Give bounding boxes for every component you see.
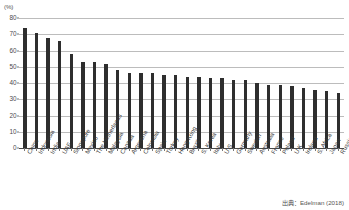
x-label-slot: U.S.: [216, 151, 228, 195]
bar-slot: [158, 18, 170, 148]
y-axis-tick-label: 70: [9, 31, 16, 37]
x-label-slot: Canada: [112, 151, 124, 195]
bar: [35, 33, 38, 148]
bar-slot: [170, 18, 182, 148]
bar-slot: [298, 18, 310, 148]
x-label-slot: Argentina: [123, 151, 135, 195]
x-label-slot: China: [19, 151, 31, 195]
y-axis-unit-label: (%): [4, 3, 13, 10]
bar-slot: [31, 18, 43, 148]
y-axis-tick-label: 0: [13, 145, 17, 151]
x-label-slot: France: [263, 151, 275, 195]
bar-slot: [216, 18, 228, 148]
bar: [197, 77, 200, 149]
bar-slot: [240, 18, 252, 148]
bar: [220, 78, 223, 148]
x-label-slot: Malaysia: [100, 151, 112, 195]
x-label-slot: Turkey: [158, 151, 170, 195]
bar-slot: [65, 18, 77, 148]
x-label-slot: Japan: [321, 151, 333, 195]
bar: [70, 54, 73, 148]
bar-slot: [123, 18, 135, 148]
bar-slot: [251, 18, 263, 148]
x-label-slot: The Netherlands: [89, 151, 101, 195]
bar-series: [19, 18, 344, 148]
x-label-slot: Ireland: [298, 151, 310, 195]
bar-slot: [54, 18, 66, 148]
bar: [58, 41, 61, 148]
x-label-slot: Mexico: [77, 151, 89, 195]
x-label-slot: S. Africa: [309, 151, 321, 195]
y-axis-tick-label: 30: [9, 96, 16, 102]
x-label-slot: Russia: [332, 151, 344, 195]
x-label-slot: Colombia: [135, 151, 147, 195]
x-label-slot: India: [42, 151, 54, 195]
y-axis-tick-label: 50: [9, 64, 16, 70]
x-label-slot: Sweden: [240, 151, 252, 195]
bar-slot: [274, 18, 286, 148]
y-axis-tick-label: 60: [9, 47, 16, 53]
x-label-slot: Germany: [228, 151, 240, 195]
bar-slot: [263, 18, 275, 148]
y-axis-tick-label: 80: [9, 15, 16, 21]
bar-slot: [228, 18, 240, 148]
source-note: 出典：Edelman (2018): [282, 198, 344, 207]
plot-area: 01020304050607080: [19, 18, 344, 148]
x-label-slot: Hong Kong: [170, 151, 182, 195]
y-axis-tick-label: 40: [9, 80, 16, 86]
x-label-slot: Australia: [251, 151, 263, 195]
x-label-slot: S. Korea: [193, 151, 205, 195]
y-axis-tick-label: 20: [9, 112, 16, 118]
bar-slot: [205, 18, 217, 148]
bar-slot: [286, 18, 298, 148]
x-label-slot: Singapore: [65, 151, 77, 195]
x-label-slot: Spain: [147, 151, 159, 195]
x-label-slot: Italy: [205, 151, 217, 195]
x-label-slot: Indonesia: [31, 151, 43, 195]
x-label-slot: UAE: [54, 151, 66, 195]
bar-slot: [332, 18, 344, 148]
x-axis-category-labels: ChinaIndonesiaIndiaUAESingaporeMexicoThe…: [19, 151, 344, 195]
bar-chart: (%) 01020304050607080 ChinaIndonesiaIndi…: [0, 0, 349, 210]
bar-slot: [321, 18, 333, 148]
bar: [23, 28, 26, 148]
bar: [302, 88, 305, 148]
x-label-slot: Brazil: [182, 151, 194, 195]
bar-slot: [135, 18, 147, 148]
bar-slot: [89, 18, 101, 148]
x-label-slot: Poland: [274, 151, 286, 195]
bar-slot: [309, 18, 321, 148]
bar: [232, 80, 235, 148]
bar-slot: [42, 18, 54, 148]
y-axis-tick-label: 10: [9, 129, 16, 135]
x-label-slot: U.K.: [286, 151, 298, 195]
bar-slot: [147, 18, 159, 148]
bar-slot: [19, 18, 31, 148]
bar: [162, 75, 165, 148]
